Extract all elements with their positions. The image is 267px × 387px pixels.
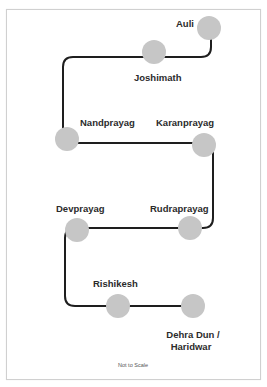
station-rishikesh xyxy=(106,294,130,318)
station-nandprayag xyxy=(55,127,79,151)
label-joshimath: Joshimath xyxy=(134,72,182,83)
station-karanprayag xyxy=(192,133,216,157)
label-dehradun-line2: Haridwar xyxy=(171,341,212,352)
station-rudraprayag xyxy=(178,216,202,240)
route-diagram: Auli Joshimath Nandprayag Karanprayag Ru… xyxy=(0,0,267,387)
not-to-scale-note: Not to Scale xyxy=(118,362,148,368)
label-auli: Auli xyxy=(176,18,194,29)
label-dehradun-line1: Dehra Dun / xyxy=(166,329,220,340)
label-rudraprayag: Rudraprayag xyxy=(150,203,209,214)
label-karanprayag: Karanprayag xyxy=(156,117,214,128)
station-joshimath xyxy=(142,40,166,64)
station-devprayag xyxy=(65,218,89,242)
station-auli xyxy=(197,16,221,40)
label-rishikesh: Rishikesh xyxy=(93,278,138,289)
station-dehradun-haridwar xyxy=(181,294,205,318)
route-line xyxy=(63,28,213,306)
label-devprayag: Devprayag xyxy=(56,203,105,214)
label-nandprayag: Nandprayag xyxy=(80,117,135,128)
